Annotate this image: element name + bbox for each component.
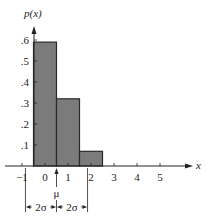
- y-tick-label: .2: [21, 118, 29, 130]
- x-tick-label: 1: [65, 171, 71, 183]
- y-axis-arrow-icon: [32, 26, 37, 34]
- left-span-arrow-right-icon: [52, 205, 56, 209]
- mu-label: μ: [54, 187, 60, 199]
- x-axis-arrow-icon: [185, 164, 193, 169]
- x-tick-label: −1: [16, 171, 28, 183]
- y-tick-label: .3: [21, 97, 30, 109]
- y-tick-label: .1: [21, 139, 29, 151]
- probability-histogram: −1012345.1.2.3.4.5.6 μ2σ2σ p(x) x: [0, 0, 212, 223]
- right-span-arrow-left-icon: [58, 205, 62, 209]
- y-tick-label: .5: [21, 55, 30, 67]
- x-tick-label: 3: [111, 171, 117, 183]
- x-tick-label: 2: [88, 171, 94, 183]
- y-tick-label: .6: [21, 34, 30, 46]
- left-two-sigma-label: 2σ: [35, 201, 47, 213]
- right-span-arrow-right-icon: [83, 205, 87, 209]
- x-tick-label: 5: [157, 171, 163, 183]
- x-tick-label: 4: [134, 171, 140, 183]
- left-span-arrow-left-icon: [26, 205, 30, 209]
- x-tick-label: 0: [42, 171, 48, 183]
- right-two-sigma-label: 2σ: [66, 201, 78, 213]
- y-axis-label: p(x): [23, 7, 42, 20]
- bar-1: [57, 99, 80, 166]
- y-tick-label: .4: [21, 76, 30, 88]
- mu-arrow-icon: [55, 168, 59, 174]
- bars-group: [34, 42, 103, 166]
- annotations-group: μ2σ2σ: [25, 168, 87, 213]
- x-axis-label: x: [195, 159, 201, 171]
